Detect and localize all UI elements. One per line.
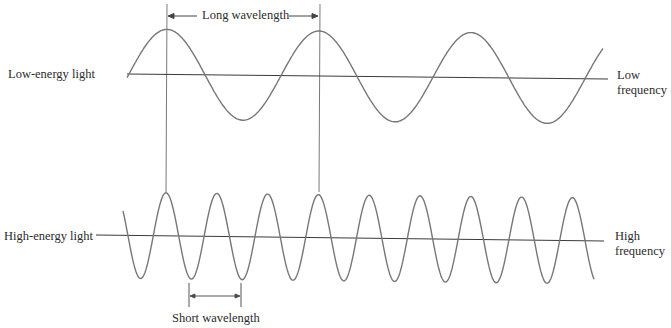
long-wavelength-label: Long wavelength <box>202 8 289 22</box>
low-wave-axis <box>127 74 608 79</box>
short-wavelength-bracket <box>189 283 241 307</box>
low-frequency-label-2: frequency <box>617 83 667 97</box>
wave-diagram <box>0 0 671 328</box>
short-wavelength-label: Short wavelength <box>172 311 260 325</box>
high-energy-label: High-energy light <box>4 229 93 243</box>
guide-line-left <box>166 4 167 192</box>
high-frequency-label-1: High <box>615 229 640 243</box>
guide-line-right <box>319 4 320 192</box>
low-energy-label: Low-energy light <box>8 67 95 81</box>
high-wave-axis <box>96 235 604 241</box>
low-frequency-label-1: Low <box>617 68 640 82</box>
high-frequency-label-2: frequency <box>615 244 665 258</box>
